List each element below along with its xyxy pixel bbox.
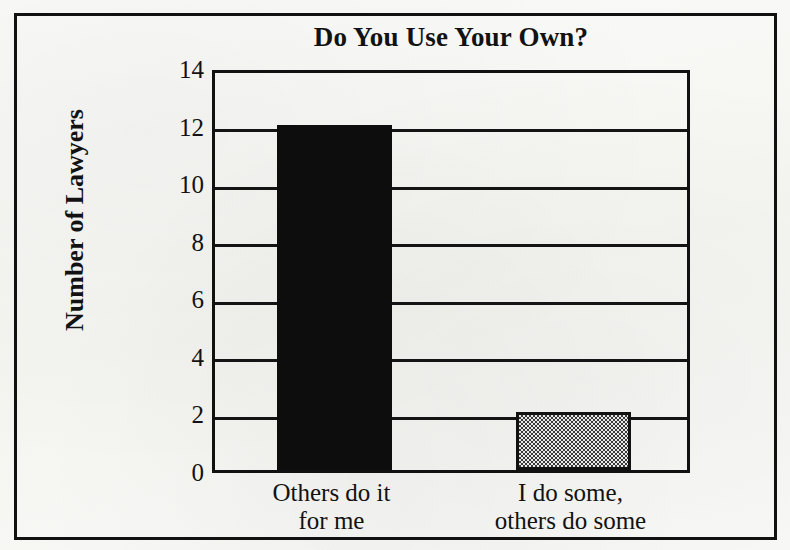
y-tick-label-12: 12 — [144, 115, 204, 140]
plot-area — [212, 70, 690, 473]
y-tick-label-6: 6 — [144, 287, 204, 312]
y-axis-title: Number of Lawyers — [60, 105, 90, 335]
y-tick-label-2: 2 — [144, 402, 204, 427]
x-tick-label-2-line-2: others do some — [411, 507, 731, 535]
x-tick-label-2-line-1: I do some, — [518, 479, 623, 506]
x-tick-label-2: I do some,others do some — [411, 479, 731, 535]
bar-1[interactable] — [277, 125, 392, 470]
y-tick-label-8: 8 — [144, 230, 204, 255]
chart-figure: Do You Use Your Own? Number of Lawyers 0… — [0, 0, 790, 550]
bar-2[interactable] — [516, 412, 631, 470]
plot-inner — [215, 73, 687, 470]
y-tick-label-14: 14 — [144, 57, 204, 82]
x-tick-label-1-line-1: Others do it — [272, 479, 390, 506]
y-tick-label-10: 10 — [144, 172, 204, 197]
y-axis-tick-labels: 02468101214 — [142, 70, 204, 473]
chart-title: Do You Use Your Own? — [212, 22, 690, 53]
y-tick-label-4: 4 — [144, 345, 204, 370]
